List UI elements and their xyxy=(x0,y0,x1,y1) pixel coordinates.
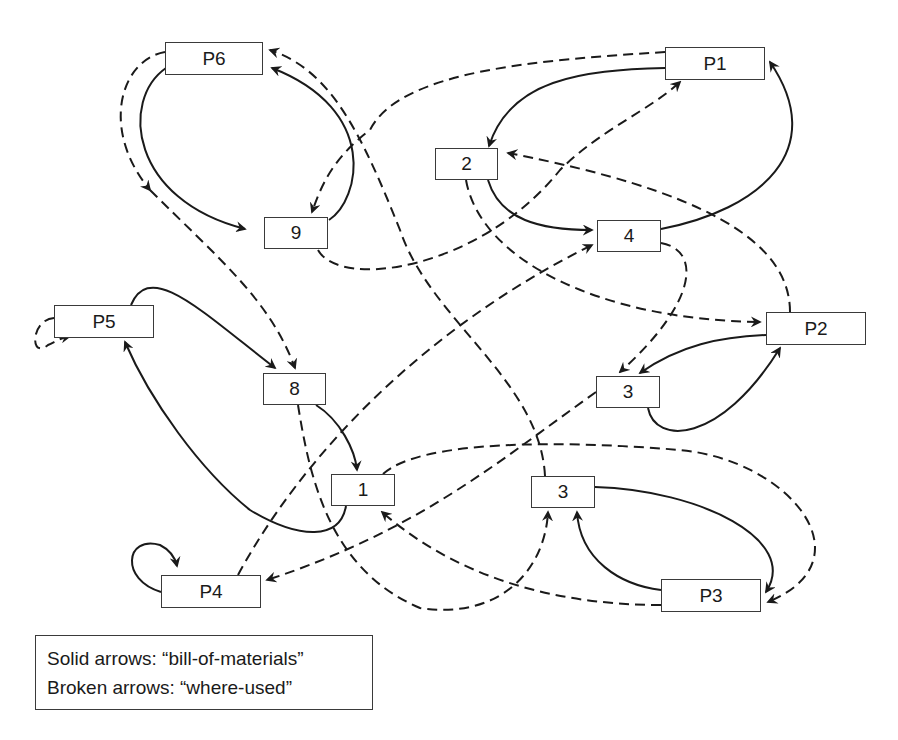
node-label: 4 xyxy=(624,225,635,247)
node-label: 8 xyxy=(289,378,300,400)
where-used-arrow-n3b-to-P6 xyxy=(270,50,545,476)
where-used-arrow-n9-to-P6 xyxy=(121,52,165,190)
bom-arrow-n1-to-P5 xyxy=(125,342,346,532)
node-P6: P6 xyxy=(165,42,263,75)
node-label: 3 xyxy=(558,481,569,503)
bom-arrow-n3a-to-P2 xyxy=(648,348,780,431)
node-n9: 9 xyxy=(264,217,328,249)
bom-arrow-n9-to-P6 xyxy=(272,68,354,220)
node-n3a: 3 xyxy=(596,376,660,408)
node-n4: 4 xyxy=(597,220,661,252)
node-P4: P4 xyxy=(161,575,261,608)
bom-arrow-P6-to-n9 xyxy=(140,68,245,229)
node-label: P5 xyxy=(92,311,115,333)
node-n2: 2 xyxy=(435,148,498,180)
legend-broken-label: Broken arrows: “where-used” xyxy=(47,673,372,702)
node-n8: 8 xyxy=(263,373,326,405)
diagram-canvas xyxy=(0,0,898,740)
node-P2: P2 xyxy=(766,312,866,345)
where-used-arrow-P4-to-n4 xyxy=(238,245,592,575)
bom-arrow-P1-to-n2 xyxy=(489,68,665,146)
node-label: P3 xyxy=(699,585,722,607)
node-label: 2 xyxy=(461,153,472,175)
node-label: P2 xyxy=(804,318,827,340)
bom-arrow-n4-to-P1 xyxy=(661,62,792,229)
where-used-arrow-n8-to-n3b xyxy=(298,405,548,610)
bom-arrow-n3b-to-P3 xyxy=(595,487,773,592)
where-used-arrow-P3-to-n1 xyxy=(382,512,661,605)
node-P1: P1 xyxy=(665,47,765,80)
node-n3b: 3 xyxy=(531,476,595,508)
node-label: 9 xyxy=(291,222,302,244)
legend-solid-label: Solid arrows: “bill-of-materials” xyxy=(47,644,372,673)
node-label: 3 xyxy=(623,381,634,403)
node-label: 1 xyxy=(358,479,369,501)
node-P3: P3 xyxy=(661,579,761,612)
node-label: P4 xyxy=(199,581,222,603)
legend-box: Solid arrows: “bill-of-materials” Broken… xyxy=(35,635,373,710)
node-P5: P5 xyxy=(54,305,154,338)
node-label: P6 xyxy=(202,48,225,70)
node-n1: 1 xyxy=(331,474,395,506)
bom-arrow-P3-to-n3b xyxy=(577,512,661,590)
node-label: P1 xyxy=(703,53,726,75)
where-used-arrow-P1-to-n9 xyxy=(312,52,665,212)
bom-arrow-P2-to-n3a xyxy=(640,335,766,373)
